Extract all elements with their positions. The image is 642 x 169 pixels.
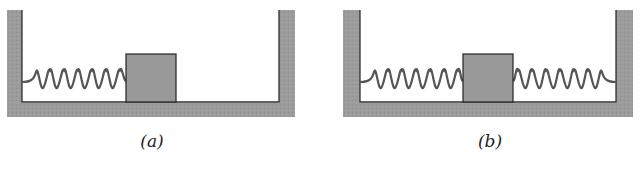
panel-b-label: (b): [478, 131, 502, 151]
block-a: [126, 54, 176, 102]
panel-a: [7, 10, 295, 117]
spring-right-b: [513, 69, 616, 88]
block-b: [463, 54, 513, 102]
spring-block-diagram: [0, 0, 642, 169]
spring-left-a: [22, 69, 126, 88]
panel-a-label: (a): [140, 131, 163, 151]
spring-left-b: [360, 69, 463, 88]
panel-b: [343, 10, 633, 117]
